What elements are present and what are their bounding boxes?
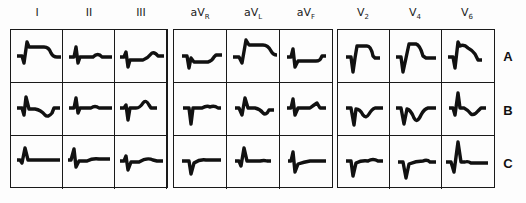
- row-label-B: B: [501, 103, 515, 118]
- lead-label-I: I: [11, 6, 63, 19]
- ecg-trace-aVR-B: [174, 83, 227, 136]
- ecg-trace-V6-B: [442, 83, 494, 136]
- ecg-waveform: [288, 152, 326, 172]
- limb-leads-panel: [10, 29, 168, 188]
- ecg-waveform: [120, 101, 157, 120]
- ecg-trace-III-A: [115, 30, 167, 83]
- lead-label-V6: V6: [441, 6, 493, 21]
- ecg-trace-III-C: [115, 136, 167, 189]
- ecg-waveform: [287, 99, 326, 115]
- ecg-waveform: [120, 52, 164, 67]
- ecg-trace-aVL-B: [227, 83, 280, 136]
- ecg-trace-III-B: [115, 83, 167, 136]
- ecg-trace-aVR-C: [174, 136, 227, 189]
- ecg-waveform: [69, 98, 112, 113]
- ecg-waveform: [233, 40, 277, 63]
- ecg-waveform: [446, 142, 488, 172]
- ecg-waveform: [346, 46, 380, 72]
- ecg-waveform: [183, 106, 221, 124]
- ecg-trace-aVL-C: [227, 136, 280, 189]
- ecg-trace-aVR-A: [174, 30, 227, 83]
- ecg-waveform: [182, 55, 222, 68]
- ecg-trace-II-C: [63, 136, 115, 189]
- ecg-trace-V2-B: [338, 83, 390, 136]
- row-label-C: C: [501, 156, 515, 171]
- ecg-trace-V4-A: [390, 30, 442, 83]
- ecg-trace-V4-B: [390, 83, 442, 136]
- ecg-waveform: [346, 160, 383, 177]
- precordial-leads-panel: [337, 29, 495, 188]
- ecg-waveform: [398, 160, 436, 178]
- lead-label-III: III: [115, 6, 167, 19]
- ecg-trace-V6-A: [442, 30, 494, 83]
- ecg-waveform: [287, 49, 326, 67]
- ecg-trace-V2-C: [338, 136, 390, 189]
- ecg-waveform: [182, 160, 221, 174]
- ecg-trace-II-A: [63, 30, 115, 83]
- lead-label-aVF: aVF: [280, 6, 332, 21]
- ecg-trace-I-C: [11, 136, 63, 189]
- ecg-waveform: [17, 148, 60, 163]
- ecg-waveform: [69, 47, 112, 63]
- ecg-trace-aVF-A: [280, 30, 333, 83]
- ecg-trace-V6-C: [442, 136, 494, 189]
- ecg-waveform: [449, 93, 486, 115]
- ecg-waveform: [396, 108, 436, 124]
- lead-label-aVL: aVL: [227, 6, 279, 21]
- ecg-waveform: [448, 42, 482, 68]
- ecg-waveform: [235, 98, 274, 115]
- lead-label-V4: V4: [389, 6, 441, 21]
- ecg-waveform: [68, 149, 110, 167]
- ecg-trace-aVL-A: [227, 30, 280, 83]
- ecg-waveform: [17, 97, 60, 116]
- ecg-trace-I-A: [11, 30, 63, 83]
- augmented-leads-panel: [173, 29, 333, 188]
- ecg-waveform: [17, 42, 61, 63]
- ecg-trace-V4-C: [390, 136, 442, 189]
- lead-label-aVR: aVR: [174, 6, 226, 21]
- row-label-A: A: [501, 49, 515, 64]
- ecg-trace-I-B: [11, 83, 63, 136]
- ecg-trace-aVF-C: [280, 136, 333, 189]
- ecg-waveform: [396, 44, 436, 72]
- ecg-trace-aVF-B: [280, 83, 333, 136]
- ecg-trace-II-B: [63, 83, 115, 136]
- ecg-trace-V2-A: [338, 30, 390, 83]
- ecg-waveform: [346, 108, 383, 125]
- lead-label-V2: V2: [337, 6, 389, 21]
- lead-label-II: II: [63, 6, 115, 19]
- ecg-waveform: [235, 148, 271, 166]
- ecg-waveform: [120, 156, 163, 170]
